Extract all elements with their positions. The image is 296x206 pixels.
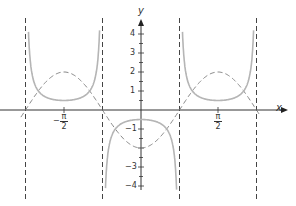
- y-axis-label: y: [138, 5, 144, 16]
- x-tick-half-pi-den: 2: [214, 122, 222, 131]
- x-axis-arrow-icon: [281, 107, 288, 113]
- y-tick-neg1: −1: [125, 124, 137, 133]
- x-tick-neg-half-pi-num: π: [60, 112, 68, 122]
- x-tick-neg-half-pi-den: 2: [60, 122, 68, 131]
- y-tick-neg4: −4: [125, 181, 137, 190]
- plot-area: [0, 0, 296, 206]
- x-tick-neg-half-pi-sign: −: [53, 116, 60, 125]
- y-tick-2: 2: [130, 67, 135, 76]
- x-axis-label: x: [276, 102, 282, 113]
- y-axis-arrow-icon: [138, 19, 144, 26]
- chart-container: x y 4 3 2 1 −1 −3 −4 − π 2 π 2: [0, 0, 296, 206]
- y-tick-4: 4: [130, 29, 135, 38]
- y-tick-3: 3: [130, 48, 135, 57]
- x-tick-half-pi-num: π: [214, 112, 222, 122]
- y-tick-1: 1: [130, 86, 135, 95]
- y-tick-neg3: −3: [125, 162, 137, 171]
